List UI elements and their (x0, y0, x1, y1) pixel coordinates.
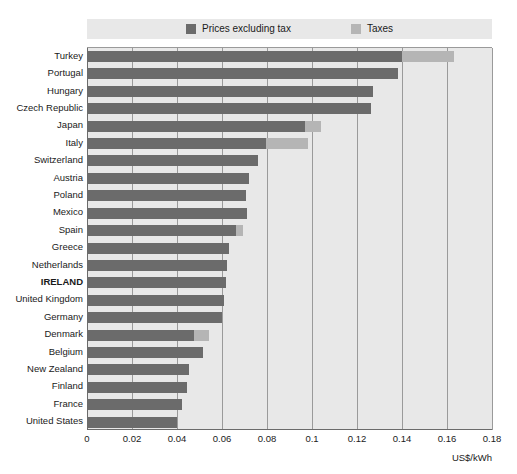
bar-row[interactable] (87, 118, 492, 135)
bar-row[interactable] (87, 135, 492, 152)
bar-rows (87, 48, 492, 430)
x-axis-tick-label: 0.16 (438, 433, 457, 444)
bar-row[interactable] (87, 222, 492, 239)
x-axis-tick-label: 0.1 (305, 433, 318, 444)
bar-segment-prices-excluding-tax[interactable] (87, 103, 371, 114)
y-axis-tick-label: Germany (0, 312, 83, 322)
x-axis-tick-label: 0.18 (483, 433, 502, 444)
bar-segment-taxes[interactable] (266, 138, 308, 149)
y-axis-tick-label: Turkey (0, 51, 83, 61)
bar-row[interactable] (87, 240, 492, 257)
bar-segment-prices-excluding-tax[interactable] (87, 382, 187, 393)
legend-label: Prices excluding tax (202, 24, 291, 34)
y-axis-tick-label: Austria (0, 173, 83, 183)
x-axis-labels: 00.020.040.060.080.10.120.140.160.18 (0, 433, 517, 447)
bar-segment-taxes[interactable] (236, 225, 244, 236)
legend-item-taxes[interactable]: Taxes (351, 24, 393, 34)
y-axis-tick-label: United States (0, 416, 83, 426)
y-axis-tick-label: Greece (0, 242, 83, 252)
bar-segment-prices-excluding-tax[interactable] (87, 364, 189, 375)
bar-segment-taxes[interactable] (194, 330, 209, 341)
bar-segment-prices-excluding-tax[interactable] (87, 330, 194, 341)
y-axis-tick-label: Portugal (0, 68, 83, 78)
bar-segment-prices-excluding-tax[interactable] (87, 121, 305, 132)
bar-row[interactable] (87, 205, 492, 222)
y-axis-tick-label: New Zealand (0, 364, 83, 374)
y-axis-tick-label: Belgium (0, 347, 83, 357)
plot-inner (87, 48, 492, 430)
bar-segment-prices-excluding-tax[interactable] (87, 51, 402, 62)
legend-swatch-icon (351, 24, 361, 34)
y-axis-tick-label: France (0, 399, 83, 409)
bar-segment-prices-excluding-tax[interactable] (87, 208, 247, 219)
legend-swatch-icon (186, 24, 196, 34)
bar-row[interactable] (87, 257, 492, 274)
gridline (492, 48, 493, 430)
bar-segment-prices-excluding-tax[interactable] (87, 399, 182, 410)
bar-row[interactable] (87, 100, 492, 117)
bar-row[interactable] (87, 361, 492, 378)
y-axis-line (87, 48, 88, 430)
bar-row[interactable] (87, 170, 492, 187)
x-axis-tick-label: 0.06 (213, 433, 232, 444)
bar-row[interactable] (87, 344, 492, 361)
y-axis-tick-label: Denmark (0, 329, 83, 339)
y-axis-tick-label: Japan (0, 120, 83, 130)
y-axis-tick-label: Hungary (0, 86, 83, 96)
bar-segment-prices-excluding-tax[interactable] (87, 138, 266, 149)
x-axis-unit-label: US$/kWh (0, 452, 492, 463)
y-axis-tick-label: Poland (0, 190, 83, 200)
y-axis-tick-label: Czech Republic (0, 103, 83, 113)
x-axis-tick-label: 0.12 (348, 433, 367, 444)
x-axis-tick-label: 0.02 (123, 433, 142, 444)
bar-row[interactable] (87, 187, 492, 204)
bar-row[interactable] (87, 309, 492, 326)
chart-legend: Prices excluding tax Taxes (87, 19, 492, 39)
legend-item-prices-excluding-tax[interactable]: Prices excluding tax (186, 24, 291, 34)
bar-segment-prices-excluding-tax[interactable] (87, 417, 177, 428)
bar-row[interactable] (87, 292, 492, 309)
bar-segment-prices-excluding-tax[interactable] (87, 190, 246, 201)
chart-container: Prices excluding tax Taxes TurkeyPortuga… (0, 0, 517, 474)
bar-row[interactable] (87, 379, 492, 396)
bar-segment-prices-excluding-tax[interactable] (87, 225, 236, 236)
bar-row[interactable] (87, 152, 492, 169)
y-axis-tick-label: IRELAND (0, 277, 83, 287)
x-axis-tick-label: 0 (84, 433, 89, 444)
bar-segment-prices-excluding-tax[interactable] (87, 347, 203, 358)
plot-area (87, 47, 492, 430)
x-axis-tick-label: 0.04 (168, 433, 187, 444)
bar-segment-prices-excluding-tax[interactable] (87, 155, 258, 166)
bar-segment-prices-excluding-tax[interactable] (87, 243, 229, 254)
y-axis-tick-label: Mexico (0, 207, 83, 217)
bar-row[interactable] (87, 83, 492, 100)
bar-row[interactable] (87, 274, 492, 291)
x-axis-tick-label: 0.14 (393, 433, 412, 444)
x-axis-line (87, 429, 492, 430)
bar-segment-prices-excluding-tax[interactable] (87, 68, 398, 79)
bar-segment-taxes[interactable] (402, 51, 454, 62)
y-axis-tick-label: Finland (0, 381, 83, 391)
bar-row[interactable] (87, 327, 492, 344)
bar-segment-prices-excluding-tax[interactable] (87, 277, 226, 288)
bar-segment-prices-excluding-tax[interactable] (87, 173, 249, 184)
bar-row[interactable] (87, 396, 492, 413)
bar-row[interactable] (87, 48, 492, 65)
legend-label: Taxes (367, 24, 393, 34)
y-axis-labels: TurkeyPortugalHungaryCzech RepublicJapan… (0, 47, 83, 430)
bar-row[interactable] (87, 65, 492, 82)
bar-segment-prices-excluding-tax[interactable] (87, 86, 373, 97)
y-axis-tick-label: Spain (0, 225, 83, 235)
x-axis-tick-label: 0.08 (258, 433, 277, 444)
bar-segment-prices-excluding-tax[interactable] (87, 295, 224, 306)
y-axis-tick-label: Italy (0, 138, 83, 148)
y-axis-tick-label: United Kingdom (0, 294, 83, 304)
y-axis-tick-label: Netherlands (0, 260, 83, 270)
bar-segment-prices-excluding-tax[interactable] (87, 312, 222, 323)
bar-segment-taxes[interactable] (305, 121, 321, 132)
y-axis-tick-label: Switzerland (0, 155, 83, 165)
bar-segment-prices-excluding-tax[interactable] (87, 260, 227, 271)
